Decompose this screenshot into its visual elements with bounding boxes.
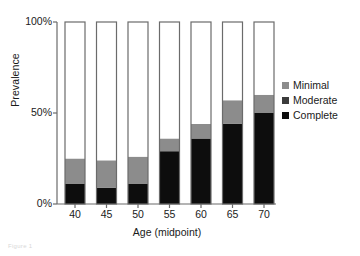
legend-item-complete: Complete	[282, 109, 358, 122]
figure-caption: Figure 1	[8, 243, 32, 249]
x-tick-label: 50	[123, 208, 153, 220]
legend-swatch-minimal	[282, 82, 289, 89]
bar-segment-none	[97, 22, 117, 160]
y-tick-label: 100%	[18, 15, 52, 27]
x-tick-label: 65	[218, 208, 248, 220]
legend-swatch-moderate	[282, 97, 289, 104]
bar-segment-complete	[160, 151, 180, 204]
x-axis-label: Age (midpoint)	[57, 226, 277, 238]
legend-label-minimal: Minimal	[293, 80, 329, 91]
chart-figure: Prevalence Age (midpoint) Minimal Modera…	[0, 0, 360, 256]
bar-segment-minimal	[128, 157, 148, 184]
bar-segment-complete	[128, 184, 148, 204]
legend-swatch-complete	[282, 112, 289, 119]
bar-segment-minimal	[223, 100, 243, 124]
bar-segment-none	[160, 22, 180, 138]
bar-segment-none	[128, 22, 148, 157]
legend-item-minimal: Minimal	[282, 79, 358, 92]
bar-segment-minimal	[160, 138, 180, 151]
bar-segment-complete	[223, 124, 243, 204]
y-tick-label-wrap: 0%	[14, 197, 52, 198]
bar-segment-minimal	[254, 95, 274, 113]
y-tick-label-wrap: 100%	[14, 15, 52, 16]
y-tick-label: 50%	[18, 106, 52, 118]
bar-segment-none	[223, 22, 243, 100]
y-tick-label: 0%	[18, 197, 52, 209]
bar-segment-complete	[191, 138, 211, 204]
bar-segment-complete	[65, 184, 85, 204]
bar-segment-minimal	[97, 160, 117, 187]
chart-legend: Minimal Moderate Complete	[282, 79, 358, 124]
y-tick-label-wrap: 50%	[14, 106, 52, 107]
legend-label-moderate: Moderate	[293, 95, 337, 106]
bar-segment-none	[191, 22, 211, 124]
bar-segment-none	[254, 22, 274, 95]
bar-segment-complete	[254, 113, 274, 204]
x-tick-label: 40	[60, 208, 90, 220]
bar-segment-none	[65, 22, 85, 159]
x-tick-label: 60	[186, 208, 216, 220]
x-tick-label: 70	[249, 208, 279, 220]
legend-label-complete: Complete	[293, 110, 338, 121]
bar-segment-minimal	[65, 159, 85, 184]
x-tick-label: 45	[92, 208, 122, 220]
bar-segment-complete	[97, 188, 117, 204]
bar-segment-minimal	[191, 124, 211, 139]
legend-item-moderate: Moderate	[282, 94, 358, 107]
x-tick-label: 55	[155, 208, 185, 220]
